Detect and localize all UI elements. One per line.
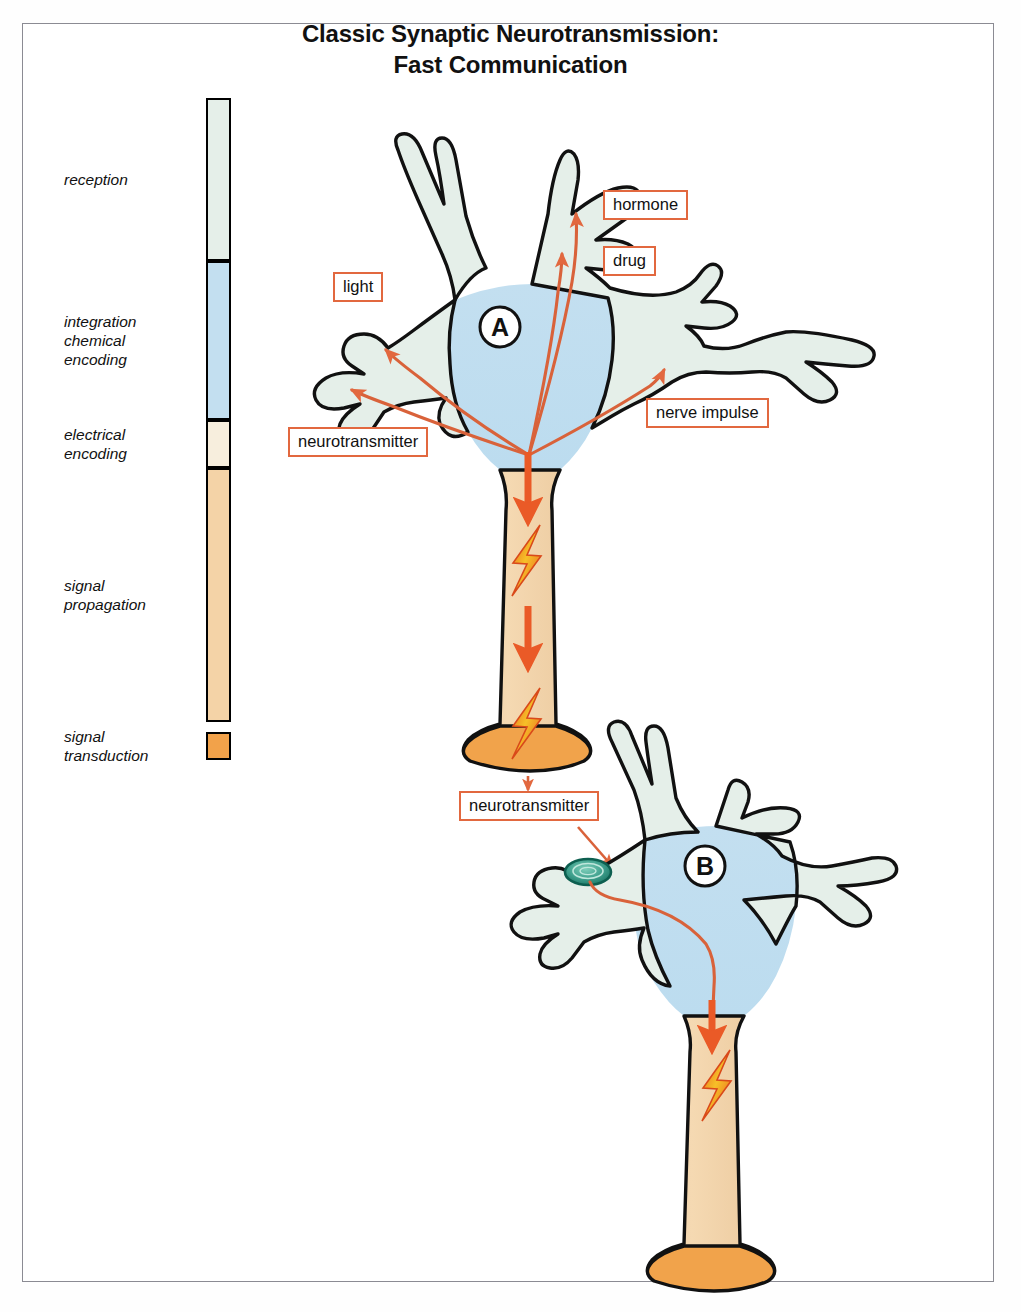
neuron-a-dendrite-upper-left xyxy=(396,134,486,300)
neuron-a-dendrites-left xyxy=(314,300,468,441)
svg-text:A: A xyxy=(491,313,509,341)
neuron-b-axon-terminal xyxy=(647,1246,774,1291)
svg-text:B: B xyxy=(696,852,714,880)
callout-drug: drug xyxy=(603,246,656,276)
callout-nerve-impulse: nerve impulse xyxy=(646,398,769,428)
callout-hormone: hormone xyxy=(603,190,688,220)
synaptic-receptor-icon xyxy=(565,859,611,885)
neuron-b-dendrites-upper xyxy=(608,721,698,840)
callout-neurotransmitter-a: neurotransmitter xyxy=(288,427,428,457)
neuron-a-label-badge: A xyxy=(480,307,520,347)
neuron-diagram: A xyxy=(0,0,1021,1312)
callout-neurotransmitter-b: neurotransmitter xyxy=(459,791,599,821)
callout-light: light xyxy=(333,272,383,302)
synapse-arrows xyxy=(528,776,612,866)
neuron-b-label-badge: B xyxy=(685,846,725,886)
